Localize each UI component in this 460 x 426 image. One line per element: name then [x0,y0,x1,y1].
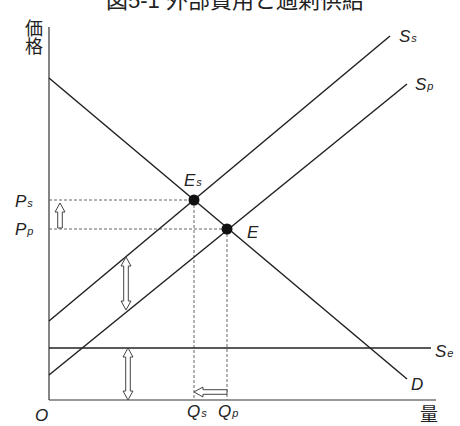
curve-label-se-main: S [435,342,447,361]
quantity-label-qp: Qp [218,402,238,421]
price-rise-arrow-icon [55,203,65,228]
equilibrium-label-e-main: E [247,223,259,242]
curve-label-d: D [411,375,423,394]
quantity-label-qp-subscript: p [231,407,238,419]
curve-label-sp-main: S [415,75,427,94]
equilibrium-label-es: Es [184,171,202,190]
quantity-label-qs-subscript: s [201,407,207,419]
chart-canvas: 図5-1 外部費用と過剰供給 DSsSpSeEsEPsPpQsQpO [0,0,460,426]
quantity-label-qp-main: Q [218,402,231,421]
price-label-pp-main: P [15,220,27,239]
x-axis-label: 量 [420,405,438,425]
curve-label-se: Se [435,342,453,361]
price-label-pp: Pp [15,220,33,239]
external-cost-level-arrow-icon [123,348,133,400]
price-label-pp-subscript: p [26,225,33,237]
external-cost-gap-arrow-icon [121,257,131,310]
curve-label-se-subscript: e [447,347,453,359]
price-label-ps-main: P [15,192,27,211]
equilibrium-point-es [189,195,200,206]
figure-title: 図5-1 外部費用と過剰供給 [106,0,364,13]
origin-label: O [35,406,48,425]
curve-label-d-main: D [411,375,423,394]
quantity-decrease-arrow-icon [194,387,227,397]
curve-ss [49,36,390,321]
quantity-label-qs-main: Q [187,402,200,421]
price-label-ps: Ps [15,192,33,211]
equilibrium-label-es-main: E [184,171,196,190]
equilibrium-label-e: E [247,223,259,242]
equilibrium-point-e [222,224,233,235]
curve-label-ss-subscript: s [411,32,417,44]
price-label-ps-subscript: s [27,197,33,209]
curve-label-ss: Ss [399,27,417,46]
curve-label-sp: Sp [415,75,433,94]
curve-label-ss-main: S [399,27,411,46]
y-axis-label: 価格 [22,19,42,55]
curve-label-sp-subscript: p [426,80,433,92]
supply-demand-figure: 図5-1 外部費用と過剰供給 DSsSpSeEsEPsPpQsQpO 価格 量 [0,0,460,426]
quantity-label-qs: Qs [187,402,207,421]
equilibrium-label-es-subscript: s [196,176,202,188]
